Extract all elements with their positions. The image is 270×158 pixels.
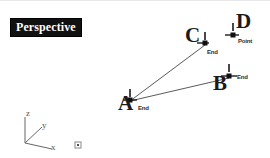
axis-label-x: x: [51, 143, 56, 152]
vertex-letter-a: A: [118, 93, 133, 114]
snap-tooltip-b: End: [237, 74, 248, 80]
vertex-letter-c: C: [185, 25, 200, 46]
drawing-canvas: [0, 1, 270, 158]
vertex-letter-b: B: [213, 73, 227, 94]
axis-y-line: [25, 127, 42, 143]
snap-node-c: [203, 41, 208, 46]
snap-node-d: [231, 33, 236, 38]
vertex-letter-d: D: [236, 11, 251, 32]
pickbox-marker: [75, 142, 81, 148]
axis-x-line: [25, 143, 52, 149]
cad-perspective-viewport[interactable]: Perspective: [0, 0, 270, 158]
pickbox-center: [77, 144, 79, 146]
snap-tooltip-c: End: [207, 49, 218, 55]
axis-triad: [25, 117, 52, 149]
axis-label-z: z: [26, 109, 30, 118]
snap-tooltip-d: Point: [238, 38, 252, 44]
snap-node-b: [227, 74, 232, 79]
axis-label-y: y: [42, 121, 47, 130]
snap-tooltip-a: End: [138, 105, 149, 111]
